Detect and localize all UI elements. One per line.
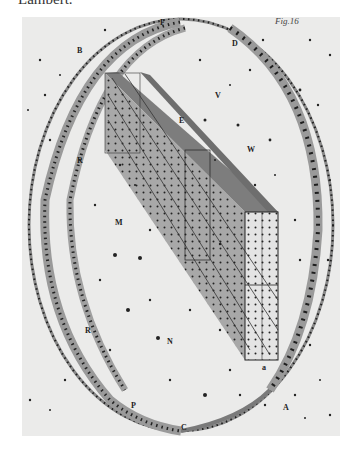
label-P: P	[131, 401, 136, 410]
label-N: N	[167, 337, 173, 346]
label-F: F	[160, 18, 165, 27]
label-R-upper: R	[77, 156, 83, 165]
label-M: M	[115, 218, 123, 227]
label-C: C	[181, 423, 187, 432]
label-W: W	[247, 145, 255, 154]
label-R-lower: R	[85, 326, 91, 335]
figure-number: Fig.16	[274, 16, 299, 26]
label-V: V	[215, 91, 221, 100]
inclined-slab	[105, 72, 278, 360]
label-A: A	[283, 403, 289, 412]
label-D: D	[232, 39, 238, 48]
galaxy-diagram: Fig.16 B F D V E W R M R N P C A a	[0, 0, 359, 456]
label-E: E	[179, 116, 184, 125]
label-a: a	[262, 363, 266, 372]
label-B: B	[77, 46, 83, 55]
